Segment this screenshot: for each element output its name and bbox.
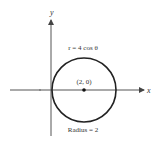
center-label: (2, 0) — [76, 78, 92, 86]
center-point — [82, 88, 86, 92]
polar-circle-diagram: y x r = 4 cos θ (2, 0) Radius = 2 — [0, 0, 159, 144]
radius-label: Radius = 2 — [68, 126, 99, 134]
equation-label: r = 4 cos θ — [68, 44, 98, 52]
x-axis-label: x — [146, 86, 151, 95]
y-axis-label: y — [49, 8, 54, 17]
